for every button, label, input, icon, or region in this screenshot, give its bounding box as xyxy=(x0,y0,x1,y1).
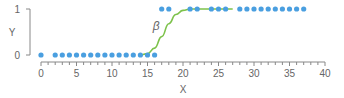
y-tick-label: 0 xyxy=(14,50,20,61)
data-point xyxy=(88,52,93,57)
x-tick-label: 0 xyxy=(38,68,44,79)
logistic-regression-chart: 01 0510152025303540 β X Y xyxy=(0,0,344,98)
data-point xyxy=(223,6,228,11)
x-tick-label: 5 xyxy=(74,68,80,79)
data-point xyxy=(266,6,271,11)
x-tick-label: 35 xyxy=(284,68,296,79)
data-point xyxy=(38,52,43,57)
x-tick-label: 30 xyxy=(248,68,260,79)
x-axis: 0510152025303540 xyxy=(38,62,331,79)
data-point xyxy=(244,6,249,11)
data-point xyxy=(152,52,157,57)
data-point xyxy=(188,6,193,11)
data-point xyxy=(117,52,122,57)
data-point xyxy=(166,6,171,11)
data-point xyxy=(138,52,143,57)
x-tick-label: 15 xyxy=(142,68,154,79)
y-axis: 01 xyxy=(14,4,30,61)
data-point xyxy=(53,52,58,57)
data-point xyxy=(124,52,129,57)
data-point xyxy=(81,52,86,57)
x-axis-label: X xyxy=(180,84,187,95)
data-point xyxy=(209,6,214,11)
x-tick-label: 20 xyxy=(177,68,189,79)
data-point xyxy=(280,6,285,11)
data-point xyxy=(301,6,306,11)
data-point xyxy=(95,52,100,57)
y-tick-label: 1 xyxy=(14,4,20,15)
data-point xyxy=(287,6,292,11)
data-point xyxy=(67,52,72,57)
data-points xyxy=(38,6,306,57)
x-tick-label: 10 xyxy=(106,68,118,79)
data-point xyxy=(74,52,79,57)
beta-annotation: β xyxy=(152,19,160,33)
x-tick-label: 25 xyxy=(213,68,225,79)
data-point xyxy=(60,52,65,57)
data-point xyxy=(102,52,107,57)
x-tick-label: 40 xyxy=(319,68,331,79)
data-point xyxy=(216,6,221,11)
data-point xyxy=(273,6,278,11)
data-point xyxy=(259,6,264,11)
data-point xyxy=(131,52,136,57)
data-point xyxy=(294,6,299,11)
data-point xyxy=(109,52,114,57)
data-point xyxy=(195,6,200,11)
y-axis-label: Y xyxy=(9,27,16,38)
data-point xyxy=(237,6,242,11)
data-point xyxy=(159,6,164,11)
data-point xyxy=(251,6,256,11)
data-point xyxy=(145,52,150,57)
